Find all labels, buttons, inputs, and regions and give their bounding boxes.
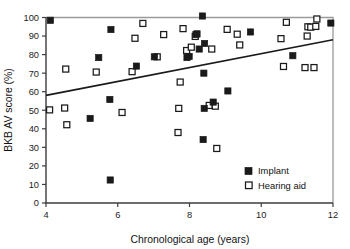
legend-marker-implant [245, 168, 252, 175]
data-point-hearing-aid [188, 44, 194, 50]
plot-canvas: 4681012 0102030405060708090100 Chronolog… [0, 0, 350, 249]
data-point-hearing-aid [132, 35, 138, 41]
data-point-implant [47, 17, 53, 23]
data-point-implant [151, 54, 157, 60]
data-point-hearing-aid [175, 130, 181, 136]
x-tick-label: 8 [187, 210, 192, 220]
data-point-implant [247, 29, 253, 35]
legend-label-implant: Implant [258, 165, 289, 176]
data-point-hearing-aid [278, 36, 284, 42]
x-tick-label: 10 [256, 210, 266, 220]
y-tick-label: 40 [29, 124, 39, 134]
data-points-implant [47, 13, 334, 183]
y-axis-title: BKB AV score (%) [3, 68, 14, 152]
data-point-implant [194, 31, 200, 37]
data-point-implant [328, 20, 334, 26]
y-tick-label: 0 [34, 198, 39, 208]
y-tick-label: 50 [29, 106, 39, 116]
data-point-implant [201, 40, 207, 46]
data-point-implant [290, 53, 296, 59]
data-point-implant [201, 70, 207, 76]
data-point-implant [225, 88, 231, 94]
axis-ticks [42, 18, 333, 208]
x-axis-tick-labels: 4681012 [43, 210, 338, 220]
data-point-hearing-aid [119, 109, 125, 115]
data-point-hearing-aid [63, 66, 69, 72]
y-tick-label: 60 [29, 87, 39, 97]
data-point-implant [186, 53, 192, 59]
scatter-plot-figure: 4681012 0102030405060708090100 Chronolog… [0, 0, 350, 249]
data-point-hearing-aid [313, 23, 319, 29]
data-point-hearing-aid [161, 32, 167, 38]
data-point-hearing-aid [180, 26, 186, 32]
x-tick-label: 4 [43, 210, 48, 220]
data-point-hearing-aid [311, 65, 317, 71]
data-point-implant [107, 177, 113, 183]
legend: Implant Hearing aid [245, 165, 306, 191]
legend-label-hearing-aid: Hearing aid [258, 180, 306, 191]
y-axis-tick-labels: 0102030405060708090100 [23, 13, 39, 209]
data-point-hearing-aid [214, 145, 220, 151]
data-point-hearing-aid [304, 33, 310, 39]
data-point-implant [87, 115, 93, 121]
data-point-hearing-aid [176, 105, 182, 111]
legend-marker-hearing-aid [246, 182, 253, 189]
data-point-hearing-aid [314, 16, 320, 22]
data-point-hearing-aid [283, 19, 289, 25]
data-point-implant [96, 54, 102, 60]
data-point-implant [200, 136, 206, 142]
data-point-hearing-aid [140, 20, 146, 26]
x-axis-title: Chronological age (years) [131, 234, 250, 245]
data-point-implant [201, 105, 207, 111]
data-point-hearing-aid [64, 122, 70, 128]
data-point-hearing-aid [237, 42, 243, 48]
data-point-hearing-aid [224, 26, 230, 32]
data-point-implant [210, 99, 216, 105]
data-point-hearing-aid [177, 79, 183, 85]
data-point-hearing-aid [62, 105, 68, 111]
data-point-implant [108, 26, 114, 32]
y-tick-label: 20 [29, 161, 39, 171]
x-tick-label: 12 [328, 210, 338, 220]
y-tick-label: 80 [29, 50, 39, 60]
y-tick-label: 90 [29, 31, 39, 41]
y-tick-label: 70 [29, 69, 39, 79]
data-point-hearing-aid [93, 69, 99, 75]
y-tick-label: 100 [23, 13, 39, 23]
x-tick-label: 6 [115, 210, 120, 220]
data-point-implant [107, 96, 113, 102]
data-point-implant [199, 13, 205, 19]
data-point-hearing-aid [234, 31, 240, 37]
y-tick-label: 30 [29, 143, 39, 153]
data-point-hearing-aid [280, 63, 286, 69]
data-point-hearing-aid [302, 65, 308, 71]
y-tick-label: 10 [29, 180, 39, 190]
data-point-implant [133, 63, 139, 69]
data-points-hearing-aid [47, 16, 320, 151]
data-point-hearing-aid [129, 69, 135, 75]
data-point-hearing-aid [47, 107, 53, 113]
data-point-hearing-aid [209, 46, 215, 52]
